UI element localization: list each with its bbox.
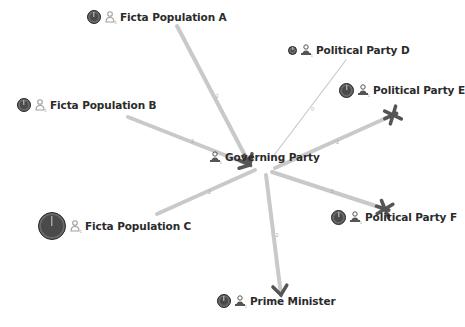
node-political-party-f[interactable]: 1Political Party F xyxy=(331,210,457,225)
svg-text:1: 1 xyxy=(45,107,48,112)
edge-D-G[interactable] xyxy=(272,60,346,158)
edge-G-PM[interactable] xyxy=(266,175,281,295)
gauge-icon xyxy=(17,98,31,112)
population-icon: 1 xyxy=(66,220,82,233)
edge-weight-label: 2 xyxy=(336,139,339,145)
edge-weight-label: 2 xyxy=(191,138,194,144)
svg-text:1: 1 xyxy=(360,219,363,224)
svg-text:1: 1 xyxy=(115,19,118,24)
edge-weight-label: 0 xyxy=(311,106,314,112)
node-ficta-population-b[interactable]: 1Ficta Population B xyxy=(17,98,157,112)
population-icon: 1 xyxy=(101,11,117,24)
svg-text:1: 1 xyxy=(245,303,248,308)
edge-weight-label: 2 xyxy=(216,93,219,99)
gauge-icon xyxy=(87,10,101,24)
gauge-icon xyxy=(288,46,297,55)
cross-end-icon xyxy=(382,106,401,125)
edge-C-G[interactable] xyxy=(157,170,255,214)
node-label: Political Party D xyxy=(316,44,410,56)
node-label: Ficta Population A xyxy=(120,11,227,23)
node-label: Governing Party xyxy=(225,151,320,163)
population-icon: 1 xyxy=(31,99,47,112)
node-label: Prime Minister xyxy=(250,295,335,307)
edge-A-G[interactable] xyxy=(177,26,250,165)
node-ficta-population-a[interactable]: 1Ficta Population A xyxy=(87,10,227,24)
edge-weight-label: 2 xyxy=(331,188,334,194)
node-label: Political Party F xyxy=(365,211,457,223)
edge-G-F[interactable] xyxy=(272,172,385,209)
party-icon: 1 xyxy=(297,44,313,57)
node-label: Ficta Population C xyxy=(85,220,191,232)
gauge-icon xyxy=(38,212,66,240)
gauge-icon xyxy=(217,294,231,308)
edge-weight-label: 2 xyxy=(208,189,211,195)
node-governing-party[interactable]: 1Governing Party xyxy=(206,151,320,164)
gauge-icon xyxy=(339,83,354,98)
svg-text:1: 1 xyxy=(311,52,314,57)
party-icon: 1 xyxy=(231,295,247,308)
node-ficta-population-c[interactable]: 1Ficta Population C xyxy=(38,212,191,240)
svg-text:1: 1 xyxy=(80,228,83,233)
node-political-party-d[interactable]: 1Political Party D xyxy=(288,44,410,57)
party-icon: 1 xyxy=(354,84,370,97)
gauge-icon xyxy=(331,210,346,225)
edge-weight-label: 2 xyxy=(276,232,279,238)
node-label: Ficta Population B xyxy=(50,99,157,111)
node-label: Political Party E xyxy=(373,84,465,96)
svg-text:1: 1 xyxy=(220,159,223,164)
node-prime-minister[interactable]: 1Prime Minister xyxy=(217,294,335,308)
party-icon: 1 xyxy=(206,151,222,164)
svg-text:1: 1 xyxy=(368,92,371,97)
party-icon: 1 xyxy=(346,211,362,224)
node-political-party-e[interactable]: 1Political Party E xyxy=(339,83,465,98)
